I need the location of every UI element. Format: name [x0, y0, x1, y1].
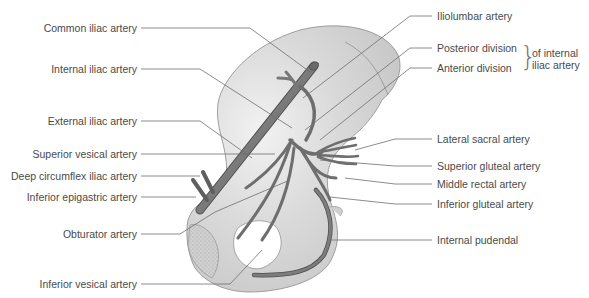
label-posterior-division: Posterior division [437, 42, 517, 54]
label-lateral-sacral-artery: Lateral sacral artery [437, 133, 530, 145]
label-middle-rectal-artery: Middle rectal artery [437, 178, 526, 190]
label-deep-circumflex-iliac-artery: Deep circumflex iliac artery [11, 170, 137, 182]
label-division-group-line2: iliac artery [532, 59, 580, 71]
label-iliolumbar-artery: Iliolumbar artery [437, 10, 512, 22]
label-division-group-line1: of internal [532, 47, 578, 59]
label-internal-iliac-artery: Internal iliac artery [51, 63, 137, 75]
label-anterior-division: Anterior division [437, 62, 512, 74]
label-inferior-epigastric-artery: Inferior epigastric artery [27, 191, 137, 203]
deep-circumflex-iliac-artery [203, 172, 213, 192]
label-inferior-vesical-artery: Inferior vesical artery [40, 278, 137, 290]
label-internal-pudendal: Internal pudendal [437, 234, 518, 246]
label-common-iliac-artery: Common iliac artery [44, 22, 137, 34]
label-superior-vesical-artery: Superior vesical artery [33, 148, 137, 160]
label-superior-gluteal-artery: Superior gluteal artery [437, 160, 540, 172]
label-inferior-gluteal-artery: Inferior gluteal artery [437, 198, 533, 210]
label-external-iliac-artery: External iliac artery [48, 115, 137, 127]
label-obturator-artery: Obturator artery [63, 228, 137, 240]
